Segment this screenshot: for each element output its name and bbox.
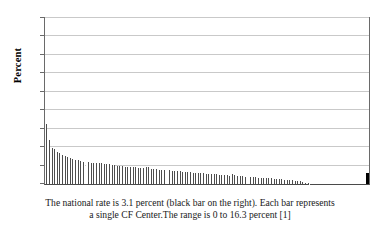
y-axis-title: Percent xyxy=(12,21,23,111)
national-rate-bar xyxy=(366,173,369,184)
chart-caption: The national rate is 3.1 percent (black … xyxy=(42,197,338,222)
bar-group xyxy=(45,18,369,184)
chart-figure: Percent 051015202530354045 The national … xyxy=(0,0,380,246)
plot-area xyxy=(44,17,370,185)
